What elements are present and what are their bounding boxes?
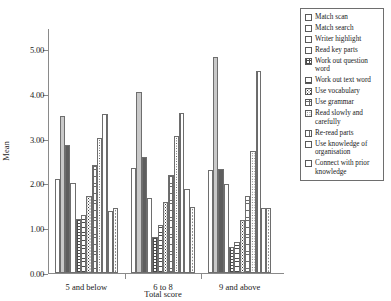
y-axis-label: Mean <box>1 141 11 160</box>
legend-item-label: Read slowly and carefully <box>315 109 380 126</box>
legend-swatch-icon <box>305 36 312 43</box>
legend-swatch-icon <box>305 58 312 65</box>
y-tick-label: 0.00 <box>30 269 44 279</box>
legend-item-label: Match scan <box>315 13 348 21</box>
legend-swatch-icon <box>305 14 312 21</box>
legend-swatch-icon <box>305 77 312 84</box>
legend-item[interactable]: Match search <box>305 24 380 32</box>
legend-item[interactable]: Read key parts <box>305 46 380 54</box>
legend-item[interactable]: Writer highlight <box>305 35 380 43</box>
legend-swatch-icon <box>305 160 312 167</box>
legend-swatch-icon <box>305 47 312 54</box>
legend-item-label: Use grammar <box>315 98 354 106</box>
legend-swatch-icon <box>305 25 312 32</box>
legend-item-label: Work out question word <box>315 57 380 74</box>
legend-swatch-icon <box>305 99 312 106</box>
legend-item-label: Work out text word <box>315 76 371 84</box>
plot-area: 0.001.002.003.004.005.00 5 and below6 to… <box>48 24 278 274</box>
legend-item-label: Read key parts <box>315 46 358 54</box>
legend-item-label: Match search <box>315 24 354 32</box>
legend-swatch-icon <box>305 88 312 95</box>
y-tick-label: 4.00 <box>30 90 44 100</box>
legend-item-label: Connect with prior knowledge <box>315 159 380 176</box>
legend-swatch-icon <box>305 141 312 148</box>
bar <box>113 208 118 273</box>
legend-item[interactable]: Connect with prior knowledge <box>305 159 380 176</box>
legend-item-label: Re-read parts <box>315 129 354 137</box>
legend-item-label: Writer highlight <box>315 35 361 43</box>
legend-item[interactable]: Use grammar <box>305 98 380 106</box>
legend-item[interactable]: Work out text word <box>305 76 380 84</box>
y-tick-label: 2.00 <box>30 179 44 189</box>
legend-item-label: Use knowledge of organisation <box>315 140 380 157</box>
legend-item[interactable]: Match scan <box>305 13 380 21</box>
legend-swatch-icon <box>305 130 312 137</box>
legend-item[interactable]: Read slowly and carefully <box>305 109 380 126</box>
bars-layer <box>48 24 278 274</box>
y-tick-label: 5.00 <box>30 45 44 55</box>
legend-item[interactable]: Work out question word <box>305 57 380 74</box>
chart-legend: Match scanMatch searchWriter highlightRe… <box>300 8 384 181</box>
bar <box>266 208 271 273</box>
x-group-separator <box>125 274 126 279</box>
legend-item[interactable]: Use knowledge of organisation <box>305 140 380 157</box>
legend-item-label: Use vocabulary <box>315 87 360 95</box>
chart-root: Mean 0.001.002.003.004.005.00 5 and belo… <box>0 0 391 301</box>
legend-item[interactable]: Use vocabulary <box>305 87 380 95</box>
y-tick-label: 1.00 <box>30 224 44 234</box>
legend-swatch-icon <box>305 110 312 117</box>
y-tick-label: 3.00 <box>30 135 44 145</box>
x-group-separator <box>201 274 202 279</box>
x-axis-label: Total score <box>48 289 278 299</box>
bar <box>190 207 195 273</box>
legend-item[interactable]: Re-read parts <box>305 129 380 137</box>
